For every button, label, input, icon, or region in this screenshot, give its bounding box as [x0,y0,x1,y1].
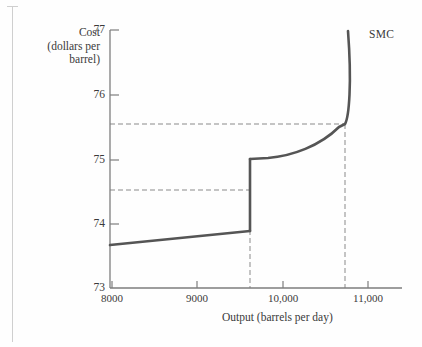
x-axis-title: Output (barrels per day) [222,311,333,325]
series-label-smc: SMC [369,28,394,42]
smc-curve [110,31,350,245]
x-tick-label-10000: 10,000 [255,292,311,305]
x-tick-marks [112,281,368,288]
y-tick-label-75: 75 [83,153,105,167]
smc-upper-branch [250,31,350,159]
smc-lower-branch [110,231,250,245]
y-axis-title-line-2: (dollars per [18,40,100,54]
guide-lines [110,124,345,288]
x-tick-label-9000: 9000 [172,292,222,305]
x-tick-label-11000: 11,000 [340,292,396,305]
y-tick-label-76: 76 [83,88,105,102]
figure-page: Cost (dollars per barrel) 77 76 75 74 73… [0,0,422,347]
y-tick-label-77: 77 [83,23,105,37]
x-tick-label-8000: 8000 [87,292,137,305]
y-tick-label-74: 74 [83,217,105,231]
y-tick-marks [110,30,119,224]
y-axis-title-line-3: barrel) [18,53,100,67]
